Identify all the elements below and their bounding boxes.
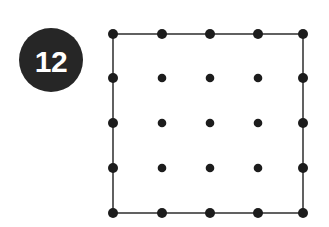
grid-dot-perimeter xyxy=(205,29,215,39)
grid-dot-perimeter xyxy=(108,118,118,128)
grid-dot-interior xyxy=(206,74,215,83)
problem-number-badge: 12 xyxy=(19,28,83,92)
badge-number-label: 12 xyxy=(35,45,67,78)
grid-dot-perimeter xyxy=(298,208,308,218)
grid-dot-perimeter xyxy=(157,208,167,218)
dot-grid-figure: 12 xyxy=(0,0,329,227)
grid-dot-perimeter xyxy=(108,29,118,39)
grid-dot-perimeter xyxy=(298,163,308,173)
grid-dot-perimeter xyxy=(298,29,308,39)
grid-dot-perimeter xyxy=(108,163,118,173)
grid-dot-interior xyxy=(158,164,167,173)
grid-dot-perimeter xyxy=(253,208,263,218)
grid-dot-interior xyxy=(158,74,167,83)
grid-dot-interior xyxy=(254,74,263,83)
grid-dot-perimeter xyxy=(108,208,118,218)
grid-dot-perimeter xyxy=(298,73,308,83)
grid-dot-interior xyxy=(206,164,215,173)
grid-dot-interior xyxy=(254,119,263,128)
grid-dot-perimeter xyxy=(157,29,167,39)
grid-dot-interior xyxy=(254,164,263,173)
figure-root: 12 xyxy=(0,0,329,227)
grid-dot-perimeter xyxy=(253,29,263,39)
grid-dot-perimeter xyxy=(298,118,308,128)
grid-dot-perimeter xyxy=(108,73,118,83)
grid-dot-perimeter xyxy=(205,208,215,218)
grid-dot-interior xyxy=(158,119,167,128)
grid-dot-interior xyxy=(206,119,215,128)
